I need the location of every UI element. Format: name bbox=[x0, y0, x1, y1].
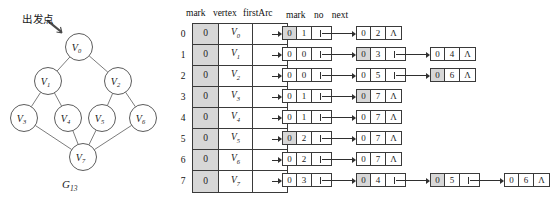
vertex-mark-cell: 0 bbox=[193, 129, 219, 149]
graph-panel: V0V1V2V3V4V5V6V7 出发点 G13 bbox=[0, 0, 178, 211]
graph-node-label-subscript: 1 bbox=[47, 81, 50, 88]
pointer-stub bbox=[320, 135, 321, 142]
vertex-name-subscript: 5 bbox=[237, 137, 240, 144]
header-arc-node: mark no next bbox=[286, 10, 348, 20]
row-index-label: 1 bbox=[178, 50, 188, 60]
vertex-name-label: V3 bbox=[231, 91, 240, 102]
arc-node[interactable]: 04Λ bbox=[430, 47, 476, 61]
pointer-stub bbox=[394, 177, 395, 184]
vertex-name-label: V0 bbox=[231, 28, 240, 39]
graph-drawing: V0V1V2V3V4V5V6V7 bbox=[0, 0, 178, 211]
vertex-name-subscript: 0 bbox=[237, 32, 240, 39]
vertex-name-label: V6 bbox=[231, 154, 240, 165]
arc-no-cell: 2 bbox=[297, 153, 312, 165]
arc-next-pointer bbox=[322, 33, 353, 34]
vertex-name-cell: V4 bbox=[219, 108, 253, 128]
arc-node[interactable]: 07Λ bbox=[356, 152, 402, 166]
arc-no-cell: 6 bbox=[445, 69, 460, 81]
arc-mark-cell: 0 bbox=[505, 174, 519, 186]
vertex-table-row[interactable]: 0V1 bbox=[193, 45, 287, 66]
arc-next-pointer bbox=[396, 75, 427, 76]
pointer-stub bbox=[320, 177, 321, 184]
arc-next-pointer bbox=[322, 159, 353, 160]
arc-no-cell: 4 bbox=[371, 174, 386, 186]
arc-node[interactable]: 06Λ bbox=[504, 173, 550, 187]
vertex-mark-cell: 0 bbox=[193, 45, 219, 65]
arc-mark-cell: 0 bbox=[283, 27, 297, 39]
vertex-table-row[interactable]: 0V7 bbox=[193, 171, 287, 192]
arc-node[interactable]: 07Λ bbox=[356, 110, 402, 124]
vertex-mark-cell: 0 bbox=[193, 171, 219, 192]
vertex-name-subscript: 6 bbox=[237, 158, 240, 165]
header-mark-label: mark bbox=[186, 8, 206, 18]
arc-no-cell: 7 bbox=[371, 132, 386, 144]
pointer-stub bbox=[320, 30, 321, 37]
arc-no-cell: 3 bbox=[371, 48, 386, 60]
arc-next-pointer bbox=[322, 138, 353, 139]
arc-next-pointer bbox=[322, 180, 353, 181]
arc-mark-cell: 0 bbox=[357, 174, 371, 186]
arc-no-cell: 7 bbox=[371, 90, 386, 102]
vertex-table-row[interactable]: 0V2 bbox=[193, 66, 287, 87]
vertex-name-cell: V5 bbox=[219, 129, 253, 149]
arc-mark-cell: 0 bbox=[431, 48, 445, 60]
graph-edge bbox=[57, 57, 70, 71]
vertex-name-cell: V3 bbox=[219, 87, 253, 107]
arc-no-cell: 1 bbox=[297, 27, 312, 39]
start-point-annotation: 出发点 bbox=[22, 11, 54, 26]
arc-mark-cell: 0 bbox=[357, 153, 371, 165]
header-arc-no-label: no bbox=[314, 10, 324, 20]
arc-mark-cell: 0 bbox=[283, 132, 297, 144]
vertex-table-row[interactable]: 0V3 bbox=[193, 87, 287, 108]
arc-no-cell: 3 bbox=[297, 174, 312, 186]
arc-mark-cell: 0 bbox=[357, 48, 371, 60]
arc-next-pointer bbox=[396, 180, 427, 181]
arc-mark-cell: 0 bbox=[431, 69, 445, 81]
arc-next-cell: Λ bbox=[386, 111, 401, 123]
header-arc-mark-label: mark bbox=[286, 10, 306, 20]
row-index-label: 7 bbox=[178, 176, 188, 186]
vertex-table-row[interactable]: 0V0 bbox=[193, 24, 287, 45]
vertex-name-cell: V2 bbox=[219, 66, 253, 86]
arc-mark-cell: 0 bbox=[283, 111, 297, 123]
arc-node[interactable]: 07Λ bbox=[356, 131, 402, 145]
arc-no-cell: 5 bbox=[371, 69, 386, 81]
graph-edge bbox=[107, 93, 112, 105]
vertex-name-label: V1 bbox=[231, 49, 240, 60]
row-index-label: 5 bbox=[178, 134, 188, 144]
vertex-table-row[interactable]: 0V4 bbox=[193, 108, 287, 129]
vertex-mark-cell: 0 bbox=[193, 87, 219, 107]
header-vertex-label: vertex bbox=[213, 8, 237, 18]
pointer-stub bbox=[320, 114, 321, 121]
arc-mark-cell: 0 bbox=[283, 90, 297, 102]
graph-caption: G13 bbox=[62, 178, 77, 193]
vertex-name-label: V7 bbox=[231, 176, 240, 187]
arc-no-cell: 2 bbox=[297, 132, 312, 144]
graph-node-label-subscript: 3 bbox=[22, 118, 27, 125]
row-index-label: 3 bbox=[178, 92, 188, 102]
graph-edge bbox=[89, 130, 96, 145]
graph-edge bbox=[126, 92, 136, 107]
arc-mark-cell: 0 bbox=[357, 132, 371, 144]
arc-mark-cell: 0 bbox=[283, 174, 297, 186]
vertex-name-cell: V7 bbox=[219, 171, 253, 192]
arc-node[interactable]: 02Λ bbox=[356, 26, 402, 40]
arc-node[interactable]: 07Λ bbox=[356, 89, 402, 103]
arc-node[interactable]: 06Λ bbox=[430, 68, 476, 82]
vertex-table-row[interactable]: 0V5 bbox=[193, 129, 287, 150]
vertex-table-row[interactable]: 0V6 bbox=[193, 150, 287, 171]
arc-next-cell: Λ bbox=[460, 48, 475, 60]
arc-mark-cell: 0 bbox=[357, 111, 371, 123]
pointer-stub bbox=[468, 177, 469, 184]
arc-no-cell: 7 bbox=[371, 153, 386, 165]
graph-edge bbox=[73, 131, 78, 145]
header-arc-next-label: next bbox=[332, 10, 348, 20]
vertex-name-label: V4 bbox=[231, 112, 240, 123]
vertex-name-label: V2 bbox=[231, 70, 240, 81]
vertex-name-cell: V6 bbox=[219, 150, 253, 170]
arc-no-cell: 1 bbox=[297, 111, 312, 123]
vertex-mark-cell: 0 bbox=[193, 108, 219, 128]
arc-no-cell: 6 bbox=[519, 174, 534, 186]
arc-next-cell: Λ bbox=[534, 174, 549, 186]
arc-no-cell: 0 bbox=[297, 69, 312, 81]
